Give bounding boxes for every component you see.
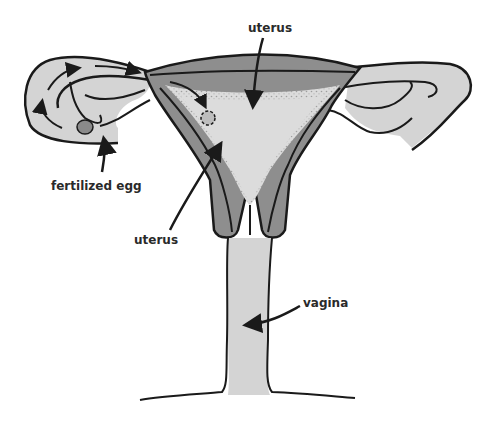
- vagina: [140, 238, 355, 400]
- label-vagina: vagina: [303, 297, 348, 309]
- reproductive-anatomy-diagram: [0, 0, 501, 430]
- label-uterus-top: uterus: [248, 22, 292, 34]
- label-uterus-left: uterus: [134, 234, 178, 246]
- fertilized-egg: [77, 120, 93, 134]
- uterus-body: [145, 55, 360, 238]
- label-fertilized-egg: fertilized egg: [51, 180, 142, 192]
